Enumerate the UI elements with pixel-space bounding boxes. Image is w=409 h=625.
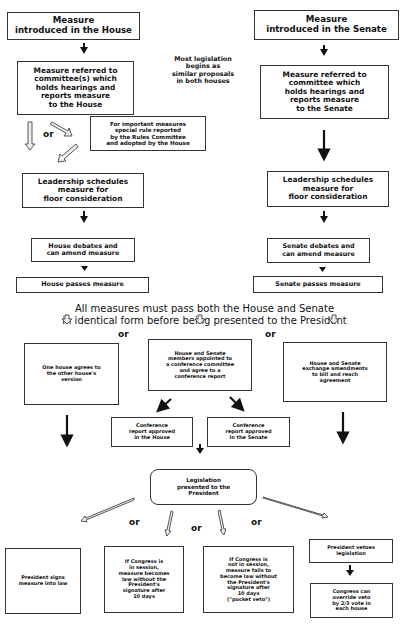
down-arrow-icon	[196, 444, 204, 454]
down-arrow-icon	[320, 211, 328, 223]
hollow-down-arrow-icon	[195, 315, 205, 324]
hollow-diagonal-arrow-icon	[50, 122, 72, 136]
hollow-down-arrow-icon	[329, 315, 339, 324]
down-arrow-icon	[320, 45, 328, 56]
down-arrow-icon	[80, 211, 88, 223]
hollow-diagonal-arrow-icon	[218, 510, 226, 535]
down-arrow-icon	[81, 266, 88, 271]
flow-arrows	[0, 0, 409, 625]
down-arrow-icon	[346, 565, 354, 576]
hollow-diagonal-arrow-icon	[58, 144, 78, 162]
hollow-diagonal-arrow-icon	[165, 511, 173, 536]
down-arrow-icon	[80, 43, 88, 54]
hollow-diagonal-arrow-icon	[81, 498, 134, 522]
hollow-down-arrow-icon	[25, 122, 35, 150]
hollow-diagonal-arrow-icon	[263, 497, 328, 518]
down-arrow-icon	[319, 267, 326, 272]
hollow-down-arrow-icon	[62, 315, 72, 324]
